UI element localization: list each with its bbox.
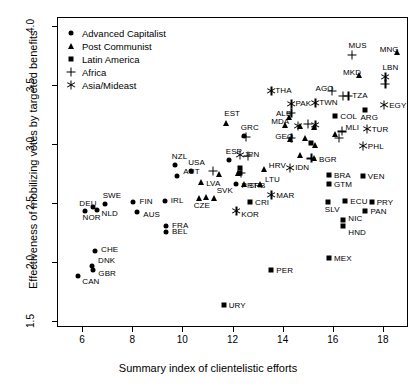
marker-square [369,200,374,205]
point-label: CZE [194,202,210,210]
marker-plus [338,91,347,100]
marker-square [341,218,346,223]
marker-triangle [223,120,229,126]
y-axis-title: Effectiveness of mobilizing votes by tar… [27,59,39,289]
point-label: NZL [172,153,187,161]
marker-star [362,124,371,133]
marker-circle [69,31,74,36]
point-label: CRI [255,199,269,207]
y-tick-mark [52,203,57,204]
point-label: EST [224,110,240,118]
legend-label: Advanced Capitalist [82,27,166,40]
point-label: AGO [316,85,334,93]
point-label: AUT [183,168,199,176]
point-label: FRA [172,222,188,230]
x-tick-label: 10 [177,334,188,345]
marker-triangle [297,152,303,158]
point-label: PHL [368,143,384,151]
point-label: IDN [295,164,309,172]
marker-square [327,256,332,261]
point-label: BRA [334,172,351,180]
x-tick-mark [383,327,384,332]
marker-circle [175,173,180,178]
point-label: BGR [319,156,337,164]
point-label: PAK [295,100,311,108]
point-label: SWE [103,192,122,200]
marker-plus [381,80,390,89]
marker-star [358,142,367,151]
point-label: KOR [241,211,259,219]
point-label: MLI [346,124,360,132]
legend-label: Africa [82,66,106,79]
point-label: PER [276,267,293,275]
marker-triangle [261,166,267,172]
point-label: MEX [334,255,352,263]
x-tick-label: 18 [377,334,388,345]
point-label: NLD [102,210,118,218]
x-tick-label: 14 [277,334,288,345]
marker-circle [131,200,136,205]
point-label: MAR [276,192,294,200]
marker-square [363,108,368,113]
point-label: HRV [269,162,286,170]
point-label: LBN [382,64,398,72]
y-tick-mark [52,144,57,145]
x-tick-mark [283,327,284,332]
marker-plus [242,133,251,142]
point-label: FIN [139,198,152,206]
point-label: COL [340,113,357,121]
point-label: AUS [143,211,160,219]
point-label: MDA [271,118,289,126]
x-tick-label: 8 [129,334,135,345]
marker-star [293,122,302,131]
point-label: SVK [217,187,233,195]
point-label: TUR [372,126,389,134]
point-label: TWN [319,99,338,107]
point-label: SRB [249,182,266,190]
point-label: MUS [349,42,367,50]
marker-square [69,57,74,62]
marker-circle [135,210,140,215]
point-label: HND [348,229,366,237]
legend-label: Post Communist [82,40,152,53]
x-tick-label: 6 [79,334,85,345]
point-label: NIC [348,215,362,223]
point-label: MKD [343,69,361,77]
point-label: EGY [389,102,406,110]
marker-star [232,206,241,215]
x-tick-mark [333,327,334,332]
x-tick-mark [82,327,83,332]
legend-item: Latin America [63,53,203,66]
point-label: LVA [206,180,220,188]
y-tick-label: 1.5 [25,314,36,328]
marker-triangle [68,43,74,49]
marker-square [269,267,274,272]
marker-triangle [211,195,217,201]
point-label: JPN [244,151,259,159]
x-axis-title: Summary index of clientelistic efforts [0,362,416,374]
x-tick-label: 12 [227,334,238,345]
point-label: CAN [82,278,99,286]
marker-square [248,200,253,205]
marker-square [327,182,332,187]
legend-item: Africa [63,66,203,79]
marker-circle [102,202,107,207]
marker-square [325,200,330,205]
marker-circle [76,273,81,278]
marker-star [381,72,390,81]
x-tick-label: 16 [327,334,338,345]
point-label: MNG [380,46,399,54]
legend-item: Advanced Capitalist [63,27,203,40]
marker-plus [347,51,356,60]
marker-plus [307,154,316,163]
legend-label: Latin America [82,53,140,66]
point-label: GEO [275,133,293,141]
marker-circle [162,199,167,204]
marker-square [221,302,226,307]
marker-square [363,209,368,214]
marker-square [341,223,346,228]
legend-label: Asia/Mideast [82,79,136,92]
marker-square [360,173,365,178]
point-label: ESP [226,148,242,156]
marker-circle [93,248,98,253]
